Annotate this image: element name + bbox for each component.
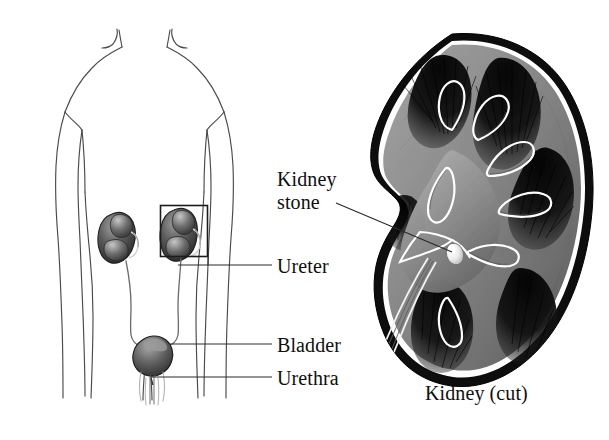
label-kidney-stone: Kidney stone [277,168,336,214]
label-ureter: Ureter [277,255,329,278]
kidney-cross-section [364,33,593,394]
bladder-organ [133,336,173,385]
kidney-stone-illustration: Kidney stone Ureter Bladder Urethra Kidn… [0,0,609,440]
label-urethra: Urethra [277,367,339,390]
medulla-pyramid-lower-left [411,280,473,373]
label-kidney-stone-line1: Kidney [277,168,336,191]
ureter-right [166,259,181,347]
ureter-left [126,261,142,347]
label-bladder: Bladder [277,334,341,357]
ureters [126,259,181,347]
right-kidney-organ [160,208,200,261]
left-kidney-organ [98,212,138,263]
caption-kidney-cut: Kidney (cut) [425,382,528,405]
label-kidney-stone-line2: stone [277,191,336,214]
